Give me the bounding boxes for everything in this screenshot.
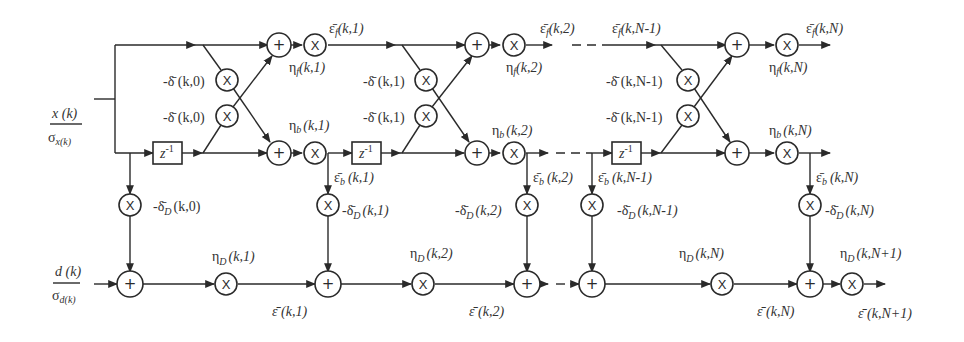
svg-text:X: X [510,38,519,53]
svg-text:+: + [471,36,484,54]
delay-block-N: z-1 [612,142,641,164]
svg-text:+: + [273,144,286,162]
label-eta-f-N: ηf(k,N) [769,60,808,77]
svg-text:x (k): x (k) [51,106,78,122]
mult-eta-b-N: X [776,142,798,164]
svg-text:+: + [731,144,744,162]
label-delta-D-0: -δ̄D(k,0) [153,199,201,217]
label-delta-bot-0: -δ̄ (k,0) [163,110,205,126]
label-eps-b-2: ε̄b(k,2) [533,170,573,187]
adder-d-0: + [117,271,143,297]
label-eps-b-N: ε̄b(k,N) [816,170,859,187]
svg-text:+: + [804,275,817,293]
svg-text:X: X [422,73,431,88]
label-eps-N: ε̄ (k,N) [757,304,795,320]
label-eta-b-1: ηb(k,1) [289,118,330,135]
label-eta-b-2: ηb(k,2) [492,123,533,140]
svg-text:X: X [684,109,693,124]
input-x-label: x (k) σx(k) [48,106,82,148]
mult-delta-D-1: X [317,194,339,216]
label-delta-top-N-1: -δ̄ (k,N-1) [606,74,663,90]
adder-b-1: + [267,141,291,165]
svg-text:d (k): d (k) [55,264,81,280]
label-eta-D-N+1: ηD(k,N+1) [840,246,902,264]
label-eps-2: ε̄ (k,2) [469,304,504,320]
svg-text:X: X [422,109,431,124]
svg-text:X: X [510,146,519,161]
mult-delta-D-0: X [119,194,141,216]
svg-text:X: X [806,198,815,213]
adder-b-2: + [465,141,489,165]
delay-block-1: z-1 [153,142,182,164]
svg-text:X: X [588,198,597,213]
mult-cross-top-2: X [415,69,437,91]
svg-text:X: X [523,198,532,213]
delay-block-2: z-1 [352,142,381,164]
svg-text:+: + [521,275,534,293]
mult-cross-bot-1: X [216,105,238,127]
label-eta-D-1: ηD(k,1) [212,249,255,267]
svg-text:+: + [731,36,744,54]
label-eps-f-N: ε̄f(k,N) [806,21,843,38]
mult-cross-bot-2: X [415,105,437,127]
label-delta-D-N-1: -δ̄D(k,N-1) [617,203,678,221]
svg-text:X: X [718,277,727,292]
mult-eta-f-2: X [503,34,525,56]
mult-delta-D-2: X [516,194,538,216]
svg-text:X: X [223,109,232,124]
mult-eta-D-1: X [215,273,237,295]
svg-text:X: X [684,73,693,88]
svg-text:X: X [783,146,792,161]
adder-f-2: + [465,33,489,57]
label-eps-f-1: ε̄f(k,1) [329,21,364,38]
label-delta-bot-1: -δ̄ (k,1) [363,110,405,126]
svg-text:X: X [324,198,333,213]
svg-text:X: X [311,146,320,161]
label-eta-b-N: ηb(k,N) [769,123,812,140]
svg-text:+: + [322,275,335,293]
adder-d-N: + [797,271,823,297]
svg-text:X: X [126,198,135,213]
svg-text:+: + [273,36,286,54]
label-delta-bot-N-1: -δ̄ (k,N-1) [606,110,663,126]
adder-b-N: + [725,141,749,165]
mult-eta-D-N+1: X [841,273,863,295]
label-delta-D-1: -δ̄D(k,1) [342,203,389,221]
adder-d-1: + [315,271,341,297]
adder-f-1: + [267,33,291,57]
mult-delta-D-N-1: X [581,194,603,216]
label-delta-D-2: -δ̄D(k,2) [455,203,502,221]
label-eps-1: ε̄ (k,1) [272,304,307,320]
mult-eta-f-1: X [304,34,326,56]
label-eta-D-N: ηD(k,N) [679,246,724,264]
svg-text:+: + [471,144,484,162]
svg-text:X: X [222,277,231,292]
mult-eta-D-N: X [711,273,733,295]
label-eps-f-2: ε̄f(k,2) [540,21,575,38]
svg-text:X: X [311,38,320,53]
mult-eta-b-2: X [503,142,525,164]
label-eps-f-N-1: ε̄f(k,N-1) [612,21,661,38]
mult-cross-top-N: X [677,69,699,91]
label-delta-top-0: -δ̄ (k,0) [163,74,205,90]
svg-text:X: X [783,38,792,53]
label-delta-D-N: -δ̄D(k,N) [825,203,874,221]
svg-text:X: X [848,277,857,292]
svg-text:σx(k): σx(k) [48,130,72,148]
mult-cross-top-1: X [216,69,238,91]
mult-eta-b-1: X [304,142,326,164]
label-eta-f-2: ηf(k,2) [506,60,542,77]
adder-d-2: + [514,271,540,297]
mult-eta-D-2: X [412,273,434,295]
lattice-flow-diagram: x (k) σx(k) d (k) σd(k) [0,0,964,342]
svg-text:X: X [223,73,232,88]
input-d-label: d (k) σd(k) [52,264,81,306]
adder-f-N: + [725,33,749,57]
adder-d-N-1: + [579,271,605,297]
label-eps-N+1: ε̄ (k,N+1) [858,306,912,322]
label-eps-b-N-1: ε̄b(k,N-1) [598,170,652,187]
svg-text:+: + [586,275,599,293]
mult-eta-f-N: X [776,34,798,56]
label-eps-b-1: ε̄b(k,1) [334,170,374,187]
svg-text:X: X [419,277,428,292]
